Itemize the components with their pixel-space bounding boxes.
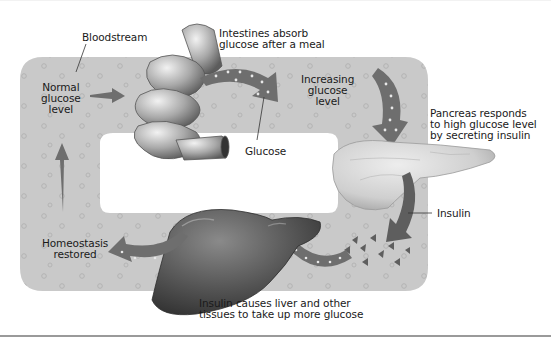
label-intestines: Intestines absorb glucose after a meal xyxy=(219,28,325,50)
label-pancreas: Pancreas responds to high glucose level … xyxy=(430,108,537,141)
label-glucose: Glucose xyxy=(245,146,286,157)
label-bloodstream: Bloodstream xyxy=(82,32,147,43)
label-homeostasis: Homeostasis restored xyxy=(42,238,108,260)
label-liver: Insulin causes liver and other tissues t… xyxy=(199,298,363,320)
label-insulin: Insulin xyxy=(437,208,471,219)
label-normal-glucose: Normal glucose level xyxy=(41,82,81,115)
bottom-divider xyxy=(0,335,551,337)
glucose-regulation-diagram: Bloodstream Intestines absorb glucose af… xyxy=(0,0,551,338)
diagram-graphics xyxy=(0,0,551,338)
label-increasing-glucose: Increasing glucose level xyxy=(301,74,354,107)
